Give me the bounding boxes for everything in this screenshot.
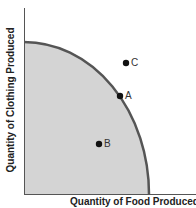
x-axis-label: Quantity of Food Produced: [70, 196, 196, 207]
point-a-marker: [117, 93, 123, 99]
point-c-label: C: [131, 57, 138, 68]
point-b-label: B: [104, 138, 111, 149]
point-a-label: A: [125, 90, 132, 101]
point-b-marker: [96, 141, 102, 147]
ppf-chart: [0, 0, 196, 208]
y-axis-label: Quantity of Clothing Produced: [5, 28, 16, 173]
point-c-marker: [123, 60, 129, 66]
